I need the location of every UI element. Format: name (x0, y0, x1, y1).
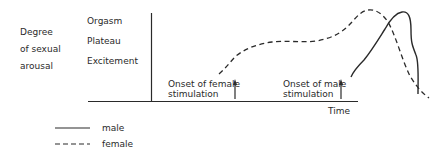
female-onset-arrow-icon (233, 79, 237, 99)
male-arousal-curve (351, 12, 418, 94)
male-onset-arrow-icon (339, 79, 343, 99)
diagram-graphics (0, 0, 445, 153)
female-arousal-curve (219, 10, 429, 98)
